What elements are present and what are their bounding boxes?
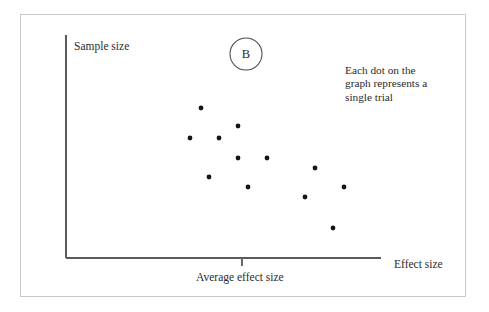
data-point bbox=[331, 226, 336, 231]
figure-container: B Sample size Effect size Average effect… bbox=[0, 0, 489, 312]
data-point bbox=[188, 136, 193, 141]
data-point bbox=[199, 106, 204, 111]
data-point bbox=[246, 185, 251, 190]
x-axis-label: Effect size bbox=[394, 258, 443, 272]
data-point bbox=[236, 124, 241, 129]
data-point bbox=[313, 166, 318, 171]
average-effect-size-label: Average effect size bbox=[196, 271, 284, 285]
annotation-line-3: single trial bbox=[345, 91, 427, 104]
data-point bbox=[303, 195, 308, 200]
data-point bbox=[217, 136, 222, 141]
data-point bbox=[265, 156, 270, 161]
annotation-text: Each dot on the graph represents a singl… bbox=[345, 64, 427, 104]
data-point bbox=[236, 156, 241, 161]
data-point-group bbox=[188, 106, 347, 231]
annotation-line-2: graph represents a bbox=[345, 77, 427, 90]
data-point bbox=[207, 175, 212, 180]
panel-letter: B bbox=[230, 38, 262, 70]
y-axis-label: Sample size bbox=[74, 40, 129, 54]
annotation-line-1: Each dot on the bbox=[345, 64, 427, 77]
data-point bbox=[342, 185, 347, 190]
